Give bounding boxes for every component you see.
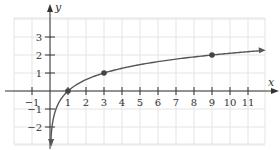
- logarithm-graph: −11234567891011321−1−2 x y: [0, 0, 280, 150]
- y-tick-label: 1: [36, 68, 42, 79]
- data-point: [209, 52, 215, 58]
- x-tick-label: 2: [83, 97, 89, 108]
- x-tick-label: 5: [137, 97, 143, 108]
- y-tick-label: 3: [36, 32, 42, 43]
- x-tick-label: 9: [209, 97, 215, 108]
- x-tick-label: 6: [155, 97, 161, 108]
- curve-arrow-down-icon: [48, 139, 54, 147]
- y-tick-label: −1: [27, 104, 42, 115]
- x-tick-label: 1: [65, 97, 71, 108]
- data-point: [101, 70, 107, 76]
- x-tick-label: 8: [191, 97, 197, 108]
- x-tick-label: 3: [101, 97, 107, 108]
- x-tick-label: 7: [173, 97, 179, 108]
- x-axis-label: x: [268, 76, 275, 89]
- x-tick-label: 11: [242, 97, 255, 108]
- y-tick-label: 2: [36, 50, 42, 61]
- ticks: −11234567891011321−1−2: [25, 32, 255, 133]
- x-tick-label: 4: [119, 97, 125, 108]
- y-tick-label: −2: [27, 122, 42, 133]
- x-tick-label: 10: [224, 97, 237, 108]
- data-point: [65, 88, 71, 94]
- y-axis-arrow-icon: [47, 4, 53, 12]
- y-axis-label: y: [54, 1, 62, 14]
